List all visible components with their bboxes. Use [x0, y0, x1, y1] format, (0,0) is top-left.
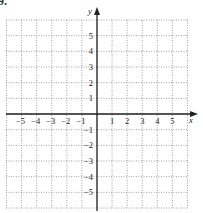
x-tick-label: −3	[46, 116, 55, 126]
y-tick-label: 4	[89, 46, 94, 56]
y-tick-label: −5	[84, 187, 93, 197]
axes	[6, 7, 198, 211]
x-tick-label: −2	[61, 116, 70, 126]
y-tick-label: 1	[89, 93, 93, 103]
y-axis-label: y	[87, 6, 92, 16]
y-tick-label: 3	[89, 62, 93, 72]
x-tick-label: 3	[140, 116, 144, 126]
y-tick-label: 2	[89, 78, 93, 88]
y-tick-label: −2	[84, 140, 93, 150]
y-tick-label: −4	[84, 172, 94, 182]
x-axis-label: x	[188, 115, 193, 125]
x-tick-label: 5	[170, 116, 174, 126]
y-tick-label: −3	[84, 156, 93, 166]
y-axis-arrow-icon	[94, 7, 100, 15]
x-tick-label: 1	[110, 116, 114, 126]
y-tick-label: 5	[89, 31, 93, 41]
x-tick-label: −5	[16, 116, 25, 126]
x-tick-label: 4	[155, 116, 160, 126]
coordinate-plane: −5−4−3−2−112345−5−4−3−2−112345xy	[0, 0, 203, 213]
tick-labels: −5−4−3−2−112345−5−4−3−2−112345xy	[16, 6, 193, 197]
x-tick-label: −4	[31, 116, 41, 126]
y-tick-label: −1	[84, 125, 93, 135]
x-tick-label: 2	[125, 116, 129, 126]
